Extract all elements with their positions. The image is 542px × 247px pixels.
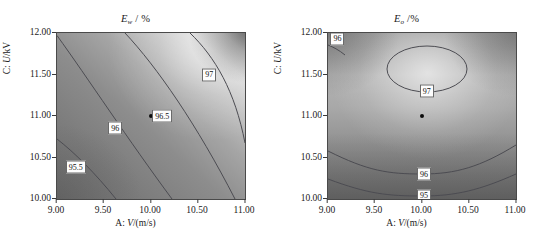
contour-label-left-1: 95.5 xyxy=(66,161,86,174)
y-tick-right-0: 12.00 xyxy=(301,27,322,37)
x-axis-label-left: A: V/(m/s) xyxy=(0,218,271,228)
plot-area-right: 96 97 96 95 xyxy=(327,32,517,200)
x-tick-right-1: 9.50 xyxy=(366,205,383,215)
x-tick-left-2: 10.00 xyxy=(139,205,160,215)
y-tick-left-2: 11.00 xyxy=(30,110,51,120)
plot-area-left: 95.5 96 96.5 97 xyxy=(56,32,246,200)
y-tick-right-1: 11.50 xyxy=(301,69,322,79)
panel-right-Eo: Eo /% xyxy=(271,0,542,247)
panel-left-Ew: Ew / % xyxy=(0,0,271,247)
x-tick-left-4: 11.00 xyxy=(233,205,254,215)
y-axis-label-right: C: U/kV xyxy=(273,18,283,98)
contour-label-left-2: 96 xyxy=(108,122,122,135)
contour-figure: Ew / % xyxy=(0,0,542,247)
contour-label-right-1: 96 xyxy=(330,32,344,45)
x-axis-label-right: A: V/(m/s) xyxy=(271,218,542,228)
x-tick-right-4: 11.00 xyxy=(504,205,525,215)
contour-label-left-4: 97 xyxy=(202,68,216,81)
x-tick-right-0: 9.00 xyxy=(319,205,336,215)
x-tick-left-3: 10.50 xyxy=(186,205,207,215)
contour-label-left-3: 96.5 xyxy=(152,110,172,123)
x-tick-left-1: 9.50 xyxy=(95,205,112,215)
contour-label-right-4: 95 xyxy=(417,189,431,200)
x-tick-right-3: 10.50 xyxy=(457,205,478,215)
contour-label-right-3: 96 xyxy=(417,168,431,181)
y-tick-left-0: 12.00 xyxy=(30,27,51,37)
y-tick-right-3: 10.50 xyxy=(301,152,322,162)
design-point-marker-right xyxy=(420,114,424,118)
panel-right-title: Eo /% xyxy=(271,13,542,26)
y-tick-right-4: 10.00 xyxy=(301,193,322,203)
y-axis-label-left: C: U/kV xyxy=(2,18,12,98)
y-tick-left-1: 11.50 xyxy=(30,69,51,79)
x-tick-left-0: 9.00 xyxy=(48,205,65,215)
y-tick-right-2: 11.00 xyxy=(301,110,322,120)
contour-label-right-2: 97 xyxy=(420,85,434,98)
y-tick-left-3: 10.50 xyxy=(30,152,51,162)
panel-left-title: Ew / % xyxy=(0,13,271,26)
x-tick-right-2: 10.00 xyxy=(410,205,431,215)
y-tick-left-4: 10.00 xyxy=(30,193,51,203)
